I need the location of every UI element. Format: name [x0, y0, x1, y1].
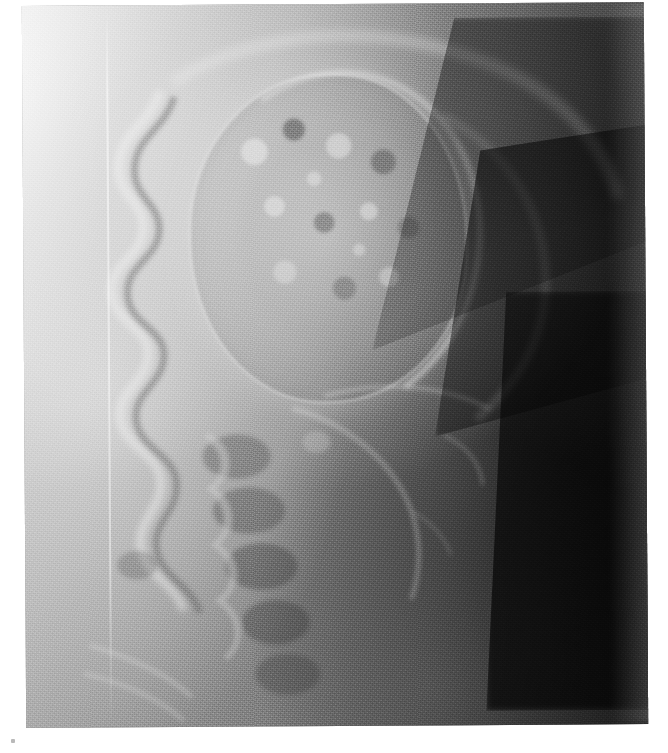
radiograph-viewport — [0, 0, 668, 753]
film-speck — [11, 739, 15, 743]
radiograph-film — [22, 2, 648, 728]
film-vignette — [22, 2, 648, 728]
